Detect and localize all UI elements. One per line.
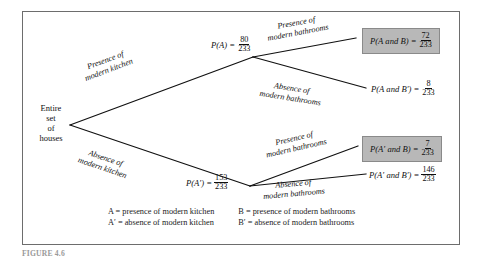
probability-p-a-prime: P(A′) = 153 233 — [186, 174, 228, 192]
probability-p-a-and-b-prime: P(A and B′) = 8 233 — [371, 80, 436, 98]
probability-p-a-prime-and-b-prime-expression: P(A′ and B′) = — [369, 170, 419, 180]
legend-item-b: B = presence of modern bathrooms — [238, 206, 355, 217]
probability-p-a-prime-fraction: 153 233 — [214, 174, 228, 192]
probability-p-a: P(A) = 80 233 — [211, 36, 251, 54]
probability-p-a-prime-and-b-fraction: 7 233 — [421, 140, 435, 158]
probability-p-a-and-b-prime-denominator: 233 — [421, 89, 435, 98]
root-label-line-4: houses — [28, 133, 74, 143]
root-label-line-2: set — [28, 113, 74, 123]
legend-item-a-prime: A′ = absence of modern kitchen — [108, 217, 214, 228]
probability-p-a-and-b-denominator: 233 — [418, 41, 432, 50]
probability-p-a-prime-and-b-expression: P(A′ and B) = — [370, 144, 419, 154]
legend: A = presence of modern kitchen A′ = abse… — [108, 206, 408, 228]
probability-p-a-prime-and-b: P(A′ and B) = 7 233 — [362, 136, 442, 162]
figure-caption: FIGURE 4.6 — [22, 249, 65, 258]
probability-p-a-prime-and-b-prime: P(A′ and B′) = 146 233 — [369, 166, 436, 184]
probability-p-a-and-b: P(A and B) = 72 233 — [362, 28, 440, 54]
probability-p-a-prime-and-b-prime-denominator: 233 — [421, 175, 435, 184]
probability-p-a-prime-and-b-denominator: 233 — [421, 149, 435, 158]
probability-p-a-expression: P(A) = — [211, 40, 235, 50]
legend-column-left: A = presence of modern kitchen A′ = abse… — [108, 206, 214, 228]
probability-p-a-denominator: 233 — [237, 45, 251, 54]
legend-item-a: A = presence of modern kitchen — [108, 206, 214, 217]
probability-p-a-and-b-prime-expression: P(A and B′) = — [371, 84, 419, 94]
root-label-line-3: of — [28, 123, 74, 133]
probability-p-a-prime-denominator: 233 — [214, 183, 228, 192]
root-label-line-1: Entire — [28, 103, 74, 113]
probability-p-a-prime-expression: P(A′) = — [186, 178, 212, 188]
probability-p-a-and-b-fraction: 72 233 — [418, 32, 432, 50]
probability-p-a-and-b-prime-fraction: 8 233 — [421, 80, 435, 98]
probability-p-a-and-b-expression: P(A and B) = — [370, 36, 416, 46]
probability-p-a-fraction: 80 233 — [237, 36, 251, 54]
legend-item-b-prime: B′ = absence of modern bathrooms — [238, 217, 355, 228]
root-node-label: Entire set of houses — [28, 103, 74, 143]
legend-column-right: B = presence of modern bathrooms B′ = ab… — [238, 206, 355, 228]
probability-p-a-prime-and-b-prime-fraction: 146 233 — [421, 166, 435, 184]
